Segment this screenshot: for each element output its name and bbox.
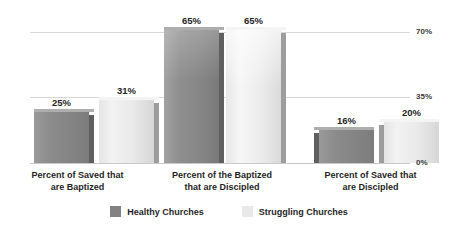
bar-healthy-saved-baptized: [34, 112, 89, 163]
bar-front-face: [226, 30, 281, 163]
axis-tick-35: 35%: [416, 92, 432, 101]
bar-front-face: [99, 100, 154, 163]
category-label-line-2: that are Discipled: [152, 182, 292, 194]
bar-front-face: [319, 130, 374, 163]
bar-side-face: [154, 103, 159, 163]
bar-healthy-baptized-discipled: [164, 30, 219, 163]
bar-front-face: [34, 112, 89, 163]
legend-swatch-icon: [242, 206, 253, 217]
bar-healthy-saved-discipled: [319, 130, 374, 163]
bar-side-face: [89, 115, 94, 163]
value-label-struggling-saved-discipled: 20%: [384, 107, 439, 118]
legend-label: Struggling Churches: [259, 207, 348, 217]
category-label-saved-baptized: Percent of Saved that are Baptized: [10, 170, 145, 193]
category-label-line-1: Percent of Saved that: [303, 170, 438, 182]
category-label-line-2: are Discipled: [303, 182, 438, 194]
legend-label: Healthy Churches: [127, 207, 204, 217]
bar-side-face: [281, 33, 286, 163]
axis-tick-70: 70%: [416, 27, 432, 36]
bar-struggling-saved-baptized: [99, 100, 154, 163]
axis-tick-0: 0%: [416, 158, 428, 167]
category-label-line-1: Percent of Saved that: [10, 170, 145, 182]
value-label-healthy-saved-discipled: 16%: [319, 115, 374, 126]
bar-chart: 25% 31% 65% 65% 16%: [0, 0, 458, 240]
bar-front-face: [384, 122, 439, 163]
value-label-healthy-saved-baptized: 25%: [34, 97, 89, 108]
legend-swatch-icon: [110, 206, 121, 217]
gridline-0: [30, 163, 410, 164]
category-label-line-2: are Baptized: [10, 182, 145, 194]
value-label-healthy-baptized-discipled: 65%: [164, 15, 219, 26]
chart-legend: Healthy Churches Struggling Churches: [0, 206, 458, 217]
category-label-saved-discipled: Percent of Saved that are Discipled: [303, 170, 438, 193]
value-label-struggling-baptized-discipled: 65%: [226, 15, 281, 26]
legend-item-struggling-churches[interactable]: Struggling Churches: [242, 206, 348, 217]
bar-struggling-baptized-discipled: [226, 30, 281, 163]
value-label-struggling-saved-baptized: 31%: [99, 85, 154, 96]
category-label-baptized-discipled: Percent of the Baptized that are Discipl…: [152, 170, 292, 193]
category-label-line-1: Percent of the Baptized: [152, 170, 292, 182]
bar-struggling-saved-discipled: [384, 122, 439, 163]
legend-item-healthy-churches[interactable]: Healthy Churches: [110, 206, 204, 217]
bar-side-face: [219, 33, 224, 163]
plot-area: 25% 31% 65% 65% 16%: [30, 20, 410, 163]
bar-front-face: [164, 30, 219, 163]
